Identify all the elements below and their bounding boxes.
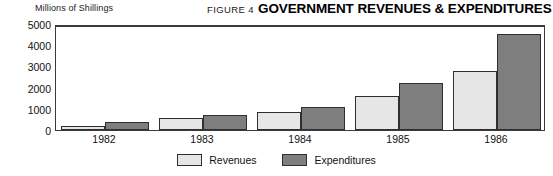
x-axis-label-1984: 1984 [288,133,311,145]
y-axis-tick-label: 0 [0,125,51,137]
bar-expenditures-1982[interactable] [105,122,149,130]
legend-swatch-revenues [177,154,202,166]
y-axis-tick-label: 2000 [0,83,51,95]
y-axis-tick-label: 4000 [0,40,51,52]
bars-layer [56,27,544,130]
x-axis-label-1986: 1986 [484,133,507,145]
y-axis-unit-label: Millions of Shillings [35,3,113,13]
y-axis-tick-label: 3000 [0,61,51,73]
legend-label: Revenues [209,154,256,166]
bar-group [61,27,149,130]
bar-revenues-1982[interactable] [61,126,105,130]
bar-revenues-1986[interactable] [453,71,497,130]
bar-revenues-1984[interactable] [257,112,301,130]
bar-group [257,27,345,130]
y-axis-ticks: 010002000300040005000 [0,25,51,131]
legend-label: Expenditures [314,154,375,166]
bar-group [159,27,247,130]
x-axis-label-1983: 1983 [190,133,213,145]
figure-container: Millions of Shillings FIGURE 4 GOVERNMEN… [0,0,553,176]
bar-expenditures-1985[interactable] [399,83,443,130]
bar-revenues-1985[interactable] [355,96,399,130]
y-axis-tick-label: 1000 [0,104,51,116]
x-axis-label-1985: 1985 [386,133,409,145]
bar-group [453,27,541,130]
chart-title: GOVERNMENT REVENUES & EXPENDITURES [258,1,552,16]
plot-area [55,25,545,131]
y-axis-tick-label: 5000 [0,19,51,31]
bar-expenditures-1983[interactable] [203,115,247,130]
legend-item-expenditures[interactable]: Expenditures [282,154,375,166]
x-axis-labels: 19821983198419851986 [55,133,545,149]
legend-swatch-expenditures [282,154,307,166]
figure-number-label: FIGURE 4 [207,4,254,15]
bar-expenditures-1986[interactable] [497,34,541,130]
bar-revenues-1983[interactable] [159,118,203,130]
x-axis-label-1982: 1982 [92,133,115,145]
bar-expenditures-1984[interactable] [301,107,345,130]
chart-legend: RevenuesExpenditures [0,154,553,166]
legend-item-revenues[interactable]: Revenues [177,154,256,166]
bar-group [355,27,443,130]
